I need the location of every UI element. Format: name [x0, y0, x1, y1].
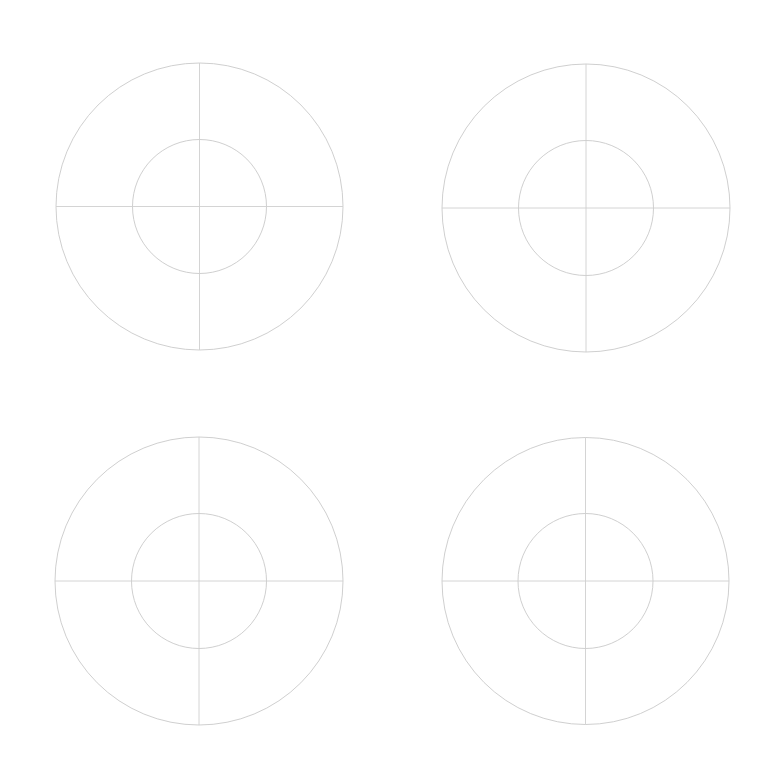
target-diagram-bottom-left	[55, 437, 343, 725]
target-diagram-top-right	[442, 64, 730, 352]
target-diagram-bottom-right	[442, 438, 729, 725]
target-diagram-top-left	[56, 63, 343, 350]
diagram-canvas	[0, 0, 780, 781]
